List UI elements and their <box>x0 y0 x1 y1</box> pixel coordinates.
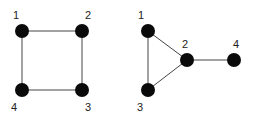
node-label: 2 <box>182 38 188 50</box>
node-2 <box>75 24 89 38</box>
node-2 <box>180 53 194 67</box>
node-4 <box>227 53 241 67</box>
node-3 <box>75 83 89 97</box>
node-3 <box>141 83 155 97</box>
node-1 <box>15 24 29 38</box>
node-label: 1 <box>13 9 19 21</box>
node-label: 3 <box>85 101 91 113</box>
edge-2-3 <box>148 60 187 90</box>
node-label: 2 <box>85 9 91 21</box>
node-1 <box>141 24 155 38</box>
triangle-tail-graph: 1234 <box>137 9 241 113</box>
graph-diagram: 12341234 <box>0 0 256 117</box>
node-4 <box>15 83 29 97</box>
node-label: 4 <box>233 38 239 50</box>
square-graph: 1234 <box>11 9 91 113</box>
node-label: 3 <box>137 101 143 113</box>
node-label: 1 <box>138 9 144 21</box>
node-label: 4 <box>11 101 17 113</box>
